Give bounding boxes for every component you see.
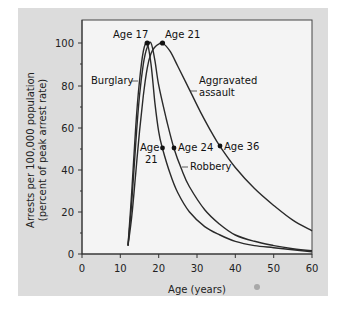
x-tick-label: 0 xyxy=(79,263,85,274)
x-tick-label: 60 xyxy=(306,263,319,274)
y-tick-label: 100 xyxy=(55,38,74,49)
marker-assault-peak xyxy=(160,40,165,45)
annotation-age24: Age 24 xyxy=(178,142,213,153)
x-tick-label: 40 xyxy=(229,263,242,274)
decorative-dot xyxy=(254,284,260,290)
y-axis-title-line2: (percent of peak arrest rate) xyxy=(37,79,48,222)
annotation-age36: Age 36 xyxy=(224,141,259,152)
x-tick-label: 10 xyxy=(114,263,127,274)
x-tick-label: 30 xyxy=(191,263,204,274)
y-axis-title: Arrests per 100,000 population (percent … xyxy=(25,72,48,228)
x-axis-title: Age (years) xyxy=(168,284,226,295)
marker-burglary-half xyxy=(160,146,165,151)
y-tick-label: 20 xyxy=(61,207,74,218)
annotation-age17: Age 17 xyxy=(113,29,148,40)
annotation-age21-half: Age xyxy=(140,142,159,153)
label-burglary: Burglary xyxy=(91,75,133,86)
y-tick-label: 80 xyxy=(61,81,74,92)
x-axis: 0 10 20 30 40 50 60 xyxy=(79,254,319,274)
y-tick-label: 40 xyxy=(61,165,74,176)
plot-area xyxy=(82,20,312,254)
label-assault-line1: Aggravated xyxy=(199,75,257,86)
x-tick-label: 50 xyxy=(267,263,280,274)
label-assault-line2: assault xyxy=(199,87,235,98)
x-tick-label: 20 xyxy=(152,263,165,274)
y-tick-label: 60 xyxy=(61,123,74,134)
marker-robbery-half xyxy=(172,146,177,151)
marker-burglary-peak xyxy=(145,40,150,45)
label-robbery: Robbery xyxy=(190,161,232,172)
annotation-age21-half-line2: 21 xyxy=(145,154,158,165)
y-tick-label: 0 xyxy=(68,249,74,260)
marker-assault-half xyxy=(218,144,223,149)
chart-svg: 0 20 40 60 80 100 0 10 20 30 40 50 60 Ag… xyxy=(0,0,339,311)
y-axis: 0 20 40 60 80 100 xyxy=(55,20,82,260)
annotation-age21-peak: Age 21 xyxy=(165,29,200,40)
y-axis-title-line1: Arrests per 100,000 population xyxy=(25,72,36,228)
